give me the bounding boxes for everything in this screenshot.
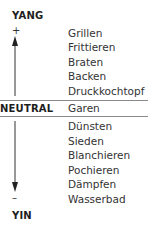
arrow-up-icon xyxy=(12,36,18,96)
arrow-down-icon xyxy=(12,121,18,192)
